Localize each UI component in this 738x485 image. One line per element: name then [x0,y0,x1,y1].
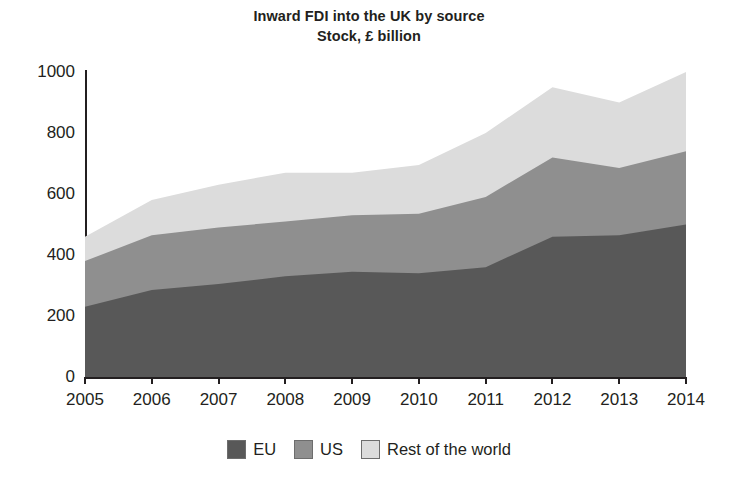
legend-swatch-rest-of-the-world [361,440,380,459]
chart-legend: EU US Rest of the world [0,440,738,459]
plot-area [85,72,686,377]
y-tick-label-600: 600 [17,185,75,202]
y-tick-label-200: 200 [17,307,75,324]
x-tick-label-2013: 2013 [587,389,651,411]
y-tick-label-1000: 1000 [17,63,75,80]
x-tick-2005 [84,377,86,384]
y-tick-label-800: 800 [17,124,75,141]
legend-swatch-eu [227,440,246,459]
x-tick-2012 [551,377,553,384]
x-tick-2009 [351,377,353,384]
legend-label-us: US [320,440,343,459]
y-tick-label-0: 0 [17,368,75,385]
legend-item-eu[interactable]: EU [227,440,276,459]
x-tick-2011 [485,377,487,384]
page-title: Inward FDI into the UK by source [0,6,738,26]
legend-label-rest-of-the-world: Rest of the world [387,440,511,459]
x-tick-label-2014: 2014 [654,389,718,411]
legend-swatch-us [294,440,313,459]
x-tick-2013 [618,377,620,384]
legend-label-eu: EU [253,440,276,459]
x-tick-label-2006: 2006 [120,389,184,411]
y-tick-label-400: 400 [17,246,75,263]
x-tick-label-2005: 2005 [53,389,117,411]
chart-subtitle: Stock, £ billion [0,26,738,46]
x-tick-label-2008: 2008 [253,389,317,411]
x-tick-2006 [151,377,153,384]
x-tick-label-2009: 2009 [320,389,384,411]
x-tick-2007 [218,377,220,384]
stacked-area-svg [85,72,686,377]
x-axis-labels: 2005200620072008200920102011201220132014 [0,389,738,415]
x-tick-2014 [685,377,687,384]
x-tick-label-2007: 2007 [187,389,251,411]
x-tick-label-2012: 2012 [520,389,584,411]
x-tick-2008 [284,377,286,384]
x-tick-2010 [418,377,420,384]
chart-container: Inward FDI into the UK by source Stock, … [0,0,738,485]
legend-item-rest-of-the-world[interactable]: Rest of the world [361,440,511,459]
x-tick-label-2010: 2010 [387,389,451,411]
legend-item-us[interactable]: US [294,440,343,459]
x-tick-label-2011: 2011 [454,389,518,411]
chart-title-block: Inward FDI into the UK by source Stock, … [0,6,738,46]
x-axis-line [85,377,687,379]
